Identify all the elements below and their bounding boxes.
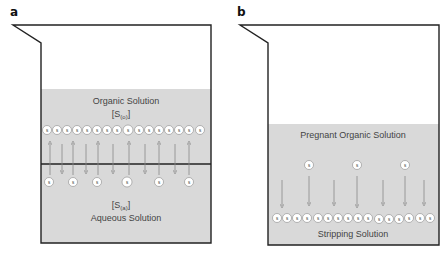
extraction-diagram: a Organic Solution [S(o)] ssss ssss ssss… xyxy=(0,0,448,255)
panel-a-organic-label: Organic Solution xyxy=(93,96,160,106)
panel-b: b Pregnant Organic Solution sss xyxy=(237,5,439,245)
panel-b-label: b xyxy=(237,5,246,19)
panel-a-label: a xyxy=(10,5,18,19)
panel-a: a Organic Solution [S(o)] ssss ssss ssss… xyxy=(10,5,211,243)
panel-b-stripping-label: Stripping Solution xyxy=(318,229,389,239)
panel-a-aqueous-label: Aqueous Solution xyxy=(91,213,162,223)
panel-b-organic-label: Pregnant Organic Solution xyxy=(300,130,406,140)
panel-b-liquid xyxy=(268,124,439,245)
